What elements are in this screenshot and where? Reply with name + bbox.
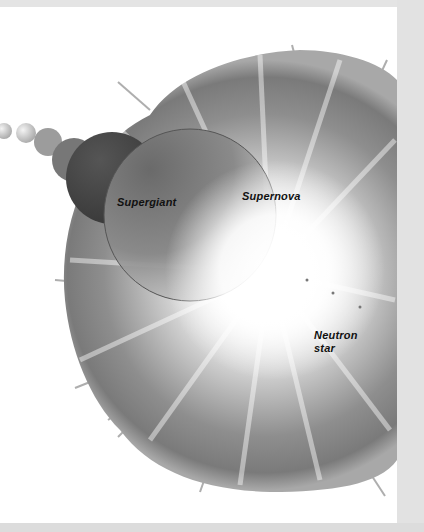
supernova-illustration [0, 7, 397, 523]
neutron-star-dot [359, 306, 362, 309]
star-small-1 [0, 123, 12, 139]
bottom-border [0, 523, 424, 532]
label-neutron-star-line1: Neutron [314, 329, 358, 342]
label-supernova: Supernova [242, 190, 301, 203]
label-neutron-star-line2: star [314, 342, 335, 355]
star-small-2 [16, 123, 36, 143]
top-border [0, 0, 424, 7]
illustration-frame: Supergiant Supernova Neutron star [0, 7, 397, 523]
neutron-star-dot [306, 279, 309, 282]
right-border [397, 0, 424, 532]
neutron-star-dot [332, 292, 335, 295]
label-supergiant: Supergiant [117, 196, 176, 209]
